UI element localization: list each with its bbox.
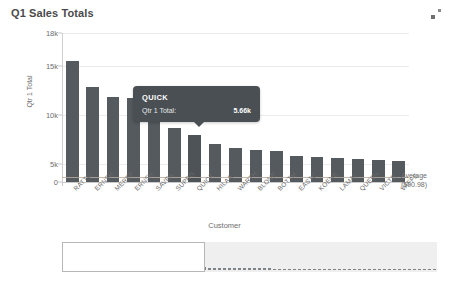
range-bar xyxy=(283,269,286,270)
range-bar xyxy=(413,269,416,270)
range-bar xyxy=(263,268,266,270)
range-bar xyxy=(398,269,401,270)
range-bar xyxy=(363,269,366,270)
page-title: Q1 Sales Totals xyxy=(11,7,94,19)
range-bar xyxy=(383,269,386,270)
range-bar xyxy=(303,269,306,270)
data-tooltip: QUICK Qtr 1 Total: 5.66k xyxy=(133,86,260,122)
range-bar xyxy=(213,268,216,270)
chart-visualization: Q1 Sales Totals Qtr 1 Total 18k 15k 10k … xyxy=(0,0,449,282)
range-bar xyxy=(228,268,231,270)
range-bar xyxy=(403,269,406,270)
tooltip-metric-value: 5.66k xyxy=(233,107,251,114)
tooltip-arrow-icon xyxy=(193,121,205,127)
range-bar xyxy=(298,269,301,270)
y-tick-label: 5k xyxy=(24,160,58,169)
range-bar xyxy=(208,268,211,270)
range-bar xyxy=(233,268,236,270)
range-bar xyxy=(393,269,396,270)
range-bar xyxy=(333,269,336,270)
range-bar xyxy=(388,269,391,270)
range-bar xyxy=(293,269,296,270)
handle-dot-1 xyxy=(438,9,441,12)
range-bar xyxy=(313,269,316,270)
bar-merep[interactable] xyxy=(107,97,120,182)
range-bar xyxy=(258,268,261,270)
tooltip-title: QUICK xyxy=(142,93,251,102)
range-bar xyxy=(308,269,311,270)
range-bar xyxy=(238,268,241,270)
range-bar xyxy=(423,269,426,270)
range-bar xyxy=(273,269,276,270)
range-bar xyxy=(358,269,361,270)
range-bar xyxy=(243,268,246,270)
y-tick-label: 15k xyxy=(24,62,58,71)
range-bar xyxy=(288,269,291,270)
range-bar xyxy=(418,269,421,270)
chart-menu-handle-icon[interactable] xyxy=(423,9,441,23)
range-bar xyxy=(328,269,331,270)
x-axis-labels: RATTCERNSHMEREPERNSHSAVEASUPRDQUICKHILAA… xyxy=(62,187,409,221)
range-bar xyxy=(428,269,431,270)
range-bar xyxy=(218,268,221,270)
handle-dot-2 xyxy=(431,15,435,19)
range-bar xyxy=(323,269,326,270)
range-bar xyxy=(378,269,381,270)
x-axis-title: Customer xyxy=(0,221,449,230)
range-bar xyxy=(253,268,256,270)
range-bar xyxy=(408,269,411,270)
range-bar xyxy=(433,269,436,270)
range-bar xyxy=(248,268,251,270)
bar-rattc[interactable] xyxy=(66,61,79,182)
range-bar xyxy=(318,269,321,270)
range-bar xyxy=(343,269,346,270)
range-bar xyxy=(373,269,376,270)
y-tick-label: 0 xyxy=(24,178,58,187)
range-selector[interactable] xyxy=(62,242,437,272)
range-bar xyxy=(353,269,356,270)
range-bar xyxy=(278,269,281,270)
y-axis-ticks: 18k 15k 10k 5k 0 xyxy=(20,26,58,186)
range-bar xyxy=(268,268,271,270)
tooltip-metric-label: Qtr 1 Total: xyxy=(142,107,176,114)
range-bar xyxy=(368,269,371,270)
range-bar xyxy=(338,269,341,270)
range-bar xyxy=(223,268,226,270)
bar-ernsh[interactable] xyxy=(86,87,99,182)
range-selector-window[interactable] xyxy=(62,242,205,272)
y-tick-label: 18k xyxy=(24,29,58,38)
y-tick-label: 10k xyxy=(24,111,58,120)
range-bar xyxy=(348,269,351,270)
